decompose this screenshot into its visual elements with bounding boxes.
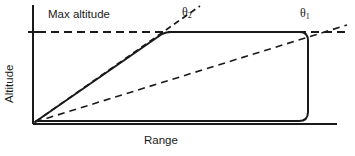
max-altitude-label: Max altitude <box>48 9 110 21</box>
theta2-subscript: 2 <box>188 11 192 20</box>
plot-canvas <box>0 0 355 156</box>
theta1-symbol: θ <box>300 6 306 20</box>
theta2-label: θ2 <box>182 6 192 18</box>
theta2-symbol: θ <box>182 5 188 19</box>
theta1-dashed-ray <box>35 25 347 122</box>
coverage-envelope-curve <box>35 32 308 122</box>
x-axis-label: Range <box>144 135 178 147</box>
y-axis-label: Altitude <box>4 54 16 114</box>
radar-coverage-diagram: Max altitude θ2 θ1 Altitude Range <box>0 0 355 156</box>
theta1-subscript: 1 <box>306 12 310 21</box>
theta1-label: θ1 <box>300 7 310 19</box>
